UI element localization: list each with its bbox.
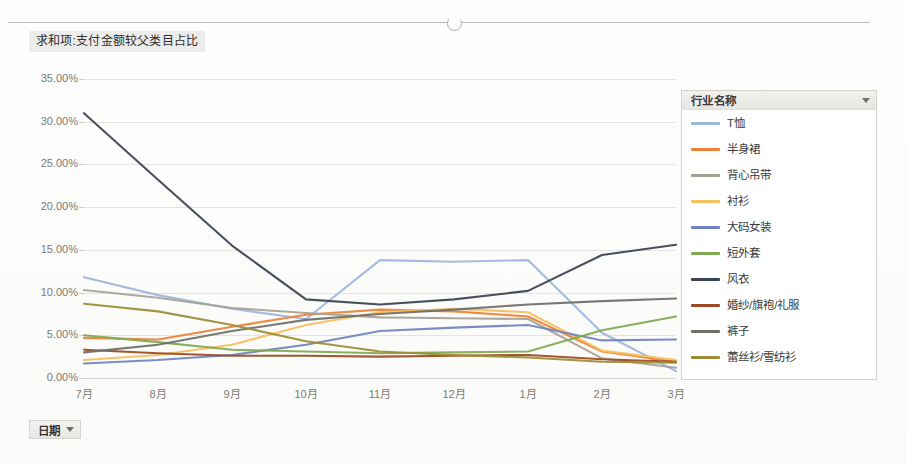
- legend-item-label: 背心吊带: [727, 169, 771, 182]
- y-axis-tick-label: 30.00%: [18, 116, 78, 127]
- legend-item-label: 蕾丝衫/雪纺衫: [727, 351, 796, 364]
- legend-item[interactable]: 半身裙: [682, 136, 876, 162]
- legend-item[interactable]: 风衣: [682, 266, 876, 292]
- x-axis-tick-label: 2月: [593, 388, 610, 400]
- plot-area[interactable]: [84, 79, 676, 378]
- legend-panel[interactable]: 行业名称 T恤半身裙背心吊带衬衫大码女装短外套风衣婚纱/旗袍/礼服裤子蕾丝衫/雪…: [681, 90, 877, 380]
- x-axis-tick-label: 9月: [223, 388, 240, 400]
- legend-item-list: T恤半身裙背心吊带衬衫大码女装短外套风衣婚纱/旗袍/礼服裤子蕾丝衫/雪纺衫: [682, 110, 876, 370]
- x-axis-tick-label: 11月: [369, 388, 391, 400]
- legend-item-label: 短外套: [727, 247, 760, 260]
- x-axis: 7月8月9月10月11月12月1月2月3月: [84, 388, 676, 404]
- chevron-down-icon[interactable]: [66, 427, 74, 432]
- x-axis-tick-label: 7月: [75, 388, 92, 400]
- y-axis-tick-label: 10.00%: [18, 287, 78, 298]
- date-field-label: 日期: [38, 422, 60, 438]
- legend-color-swatch: [691, 252, 720, 255]
- legend-color-swatch: [691, 304, 720, 307]
- x-axis-tick-label: 8月: [149, 388, 166, 400]
- chart-title[interactable]: 求和项:支付金额较父类目占比: [29, 31, 205, 52]
- x-axis-tick-label: 3月: [667, 388, 684, 400]
- legend-color-swatch: [691, 148, 720, 151]
- legend-item[interactable]: 背心吊带: [682, 162, 876, 188]
- legend-header-title: 行业名称: [691, 92, 862, 108]
- x-axis-tick-label: 1月: [519, 388, 536, 400]
- legend-color-swatch: [691, 122, 720, 125]
- series-line: [84, 113, 676, 304]
- y-axis-tick-label: 20.00%: [18, 201, 78, 212]
- legend-item[interactable]: 裤子: [682, 318, 876, 344]
- x-axis-tick-label: 12月: [442, 388, 465, 400]
- legend-color-swatch: [691, 330, 720, 333]
- legend-item-label: 风衣: [727, 273, 749, 286]
- legend-item-label: T恤: [727, 117, 745, 130]
- legend-color-swatch: [691, 278, 720, 281]
- legend-item[interactable]: 短外套: [682, 240, 876, 266]
- y-axis-tick-label: 0.00%: [18, 372, 78, 383]
- legend-color-swatch: [691, 200, 720, 203]
- legend-item[interactable]: 蕾丝衫/雪纺衫: [682, 344, 876, 370]
- legend-item[interactable]: 衬衫: [682, 188, 876, 214]
- legend-color-swatch: [691, 226, 720, 229]
- series-lines: [84, 79, 676, 378]
- legend-item-label: 裤子: [727, 325, 749, 338]
- legend-item[interactable]: T恤: [682, 110, 876, 136]
- chart-top-border: [8, 22, 870, 23]
- y-axis: 35.00%30.00%25.00%20.00%15.00%10.00%5.00…: [16, 79, 78, 378]
- chevron-down-icon[interactable]: [862, 98, 870, 103]
- legend-item-label: 衬衫: [727, 195, 749, 208]
- legend-header[interactable]: 行业名称: [682, 91, 876, 110]
- legend-item[interactable]: 婚纱/旗袍/礼服: [682, 292, 876, 318]
- pivot-chart-object[interactable]: 求和项:支付金额较父类目占比 35.00%30.00%25.00%20.00%1…: [0, 0, 907, 465]
- resize-handle-icon[interactable]: [447, 16, 462, 31]
- x-axis-tick-label: 10月: [294, 388, 317, 400]
- legend-item[interactable]: 大码女装: [682, 214, 876, 240]
- date-field-button[interactable]: 日期: [29, 420, 81, 439]
- y-axis-tick-label: 35.00%: [18, 73, 78, 84]
- y-axis-tick-label: 25.00%: [18, 158, 78, 169]
- y-axis-tick-label: 5.00%: [18, 329, 78, 340]
- legend-item-label: 半身裙: [727, 143, 760, 156]
- series-line: [84, 316, 676, 353]
- legend-item-label: 婚纱/旗袍/礼服: [727, 299, 799, 312]
- legend-color-swatch: [691, 356, 720, 359]
- y-axis-tick-label: 15.00%: [18, 244, 78, 255]
- legend-item-label: 大码女装: [727, 221, 771, 234]
- legend-color-swatch: [691, 174, 720, 177]
- x-axis-line: [84, 378, 676, 379]
